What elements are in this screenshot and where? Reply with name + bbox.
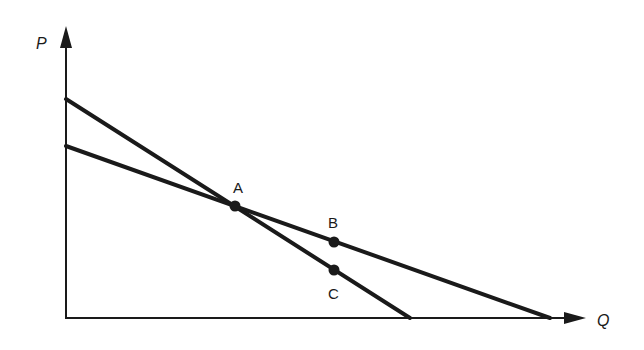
points: A B C bbox=[230, 179, 340, 302]
point-b-marker bbox=[329, 237, 340, 248]
flat-line bbox=[66, 146, 550, 318]
x-axis-label: Q bbox=[597, 312, 609, 329]
x-axis-arrow-icon bbox=[564, 312, 586, 324]
point-b-label: B bbox=[328, 214, 338, 231]
point-c-label: C bbox=[328, 285, 339, 302]
point-c-marker bbox=[329, 265, 340, 276]
curves bbox=[66, 99, 550, 318]
y-axis-arrow-icon bbox=[60, 26, 72, 48]
price-quantity-diagram: P Q A B C bbox=[0, 0, 644, 350]
point-a-marker bbox=[230, 201, 241, 212]
point-a-label: A bbox=[233, 179, 243, 196]
axes: P Q bbox=[36, 26, 609, 329]
y-axis-label: P bbox=[36, 35, 47, 52]
